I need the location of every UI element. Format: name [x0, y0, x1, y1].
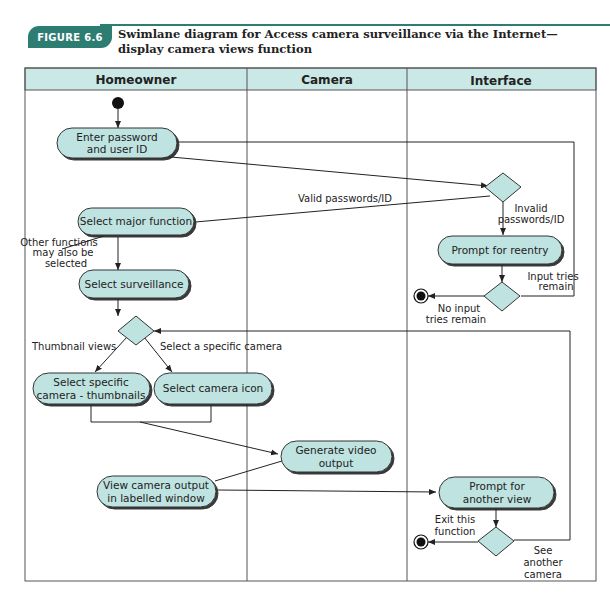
lane-header-homeowner: Homeowner [96, 73, 177, 87]
svg-text:output: output [319, 457, 354, 469]
swimlane-diagram: Homeowner Camera Interface [0, 0, 610, 606]
svg-text:Select major function: Select major function [80, 215, 192, 227]
action-select-major-function: Select major function [78, 208, 194, 235]
end-node-reentry-icon [414, 289, 428, 303]
label-invalid-2: passwords/ID [498, 214, 565, 225]
lane-header-camera: Camera [301, 73, 353, 87]
label-valid: Valid passwords/ID [298, 193, 392, 204]
label-see-another-3: camera [524, 569, 562, 580]
action-prompt-another-view: Prompt for another view [439, 477, 554, 508]
svg-text:View camera output: View camera output [103, 479, 209, 491]
decision-tries-icon [484, 282, 520, 311]
label-other-functions-3: selected [45, 258, 87, 269]
svg-text:Generate video: Generate video [295, 444, 376, 456]
svg-text:another view: another view [463, 493, 532, 505]
start-node-icon [112, 97, 124, 109]
decision-another-view-icon [478, 527, 514, 556]
svg-text:Enter password: Enter password [76, 131, 157, 143]
lane-header-interface: Interface [470, 74, 531, 88]
label-see-another-1: See [534, 545, 553, 556]
svg-text:Prompt for: Prompt for [469, 480, 525, 492]
action-select-thumbnails: Select specific camera - thumbnails [33, 373, 150, 404]
svg-text:camera - thumbnails: camera - thumbnails [37, 389, 146, 401]
label-exit-2: function [435, 526, 476, 537]
label-no-input-1: No input [438, 303, 481, 314]
action-prompt-reentry: Prompt for reentry [438, 236, 562, 264]
label-no-input-2: tries remain [426, 314, 486, 325]
action-generate-video-output: Generate video output [281, 441, 392, 472]
svg-text:and user ID: and user ID [87, 143, 148, 155]
svg-text:in labelled window: in labelled window [107, 492, 205, 504]
action-enter-password: Enter password and user ID [57, 128, 177, 158]
label-see-another-2: another [523, 557, 563, 568]
svg-text:Prompt for reentry: Prompt for reentry [451, 244, 548, 256]
svg-text:Select surveillance: Select surveillance [85, 278, 184, 290]
action-select-camera-icon: Select camera icon [154, 373, 272, 404]
svg-text:Select specific: Select specific [53, 376, 129, 388]
label-other-functions-2: may also be [33, 247, 94, 258]
label-invalid-1: Invalid [514, 203, 547, 214]
end-node-exit-icon [414, 535, 428, 549]
label-exit-1: Exit this [435, 514, 475, 525]
label-thumbnail-views: Thumbnail views [31, 341, 116, 352]
action-select-surveillance: Select surveillance [79, 270, 189, 298]
decision-password-icon [485, 173, 521, 202]
label-select-specific-camera: Select a specific camera [160, 341, 282, 352]
action-view-camera-output: View camera output in labelled window [97, 476, 216, 507]
svg-text:Select camera icon: Select camera icon [163, 382, 263, 394]
label-input-tries-2: remain [538, 281, 573, 292]
